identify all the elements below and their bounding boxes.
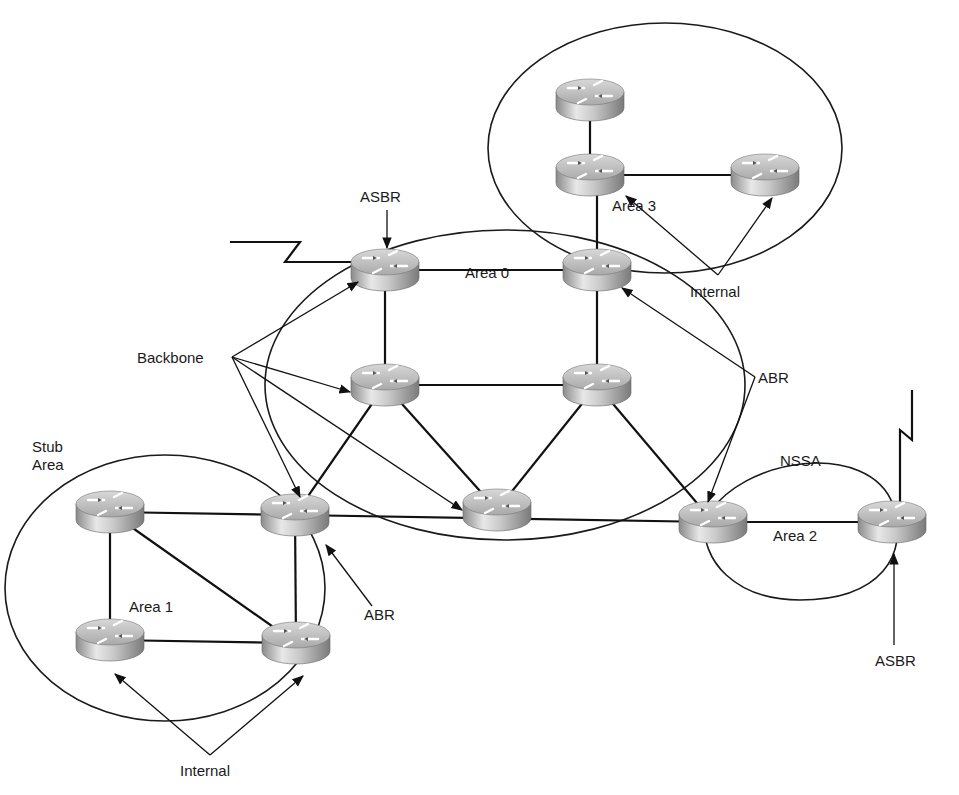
router-area1-top-left — [76, 491, 144, 533]
area0-label: Area 0 — [465, 264, 509, 281]
nssa-label: NSSA — [780, 452, 821, 469]
router-area0-bottom — [463, 489, 531, 531]
router-area3-right — [731, 154, 799, 196]
router-area0-asbr — [351, 249, 419, 291]
internal-bottom-label: Internal — [180, 762, 230, 779]
stub-area-label-line1: Stub — [32, 438, 63, 455]
asbr-bottom-label: ASBR — [875, 652, 916, 669]
router-area2-asbr — [858, 501, 926, 543]
router-area2-abr — [679, 501, 747, 543]
area3-boundary — [488, 23, 842, 273]
router-area0-abr — [563, 249, 631, 291]
router-area1-bottom-right — [262, 622, 330, 664]
area2-label: Area 2 — [773, 527, 817, 544]
router-area1-bottom-left — [76, 619, 144, 661]
router-area0-mid-right — [563, 364, 631, 406]
area1-label: Area 1 — [129, 598, 173, 615]
internal-top-label: Internal — [690, 283, 740, 300]
backbone-label: Backbone — [137, 349, 204, 366]
router-area3-top — [556, 79, 624, 121]
area3-label: Area 3 — [612, 197, 656, 214]
router-area3-left — [556, 154, 624, 196]
abr-bottom-label: ABR — [364, 606, 395, 623]
router-area1-abr — [261, 494, 329, 536]
ospf-topology-diagram — [0, 0, 959, 795]
abr-right-label: ABR — [758, 369, 789, 386]
area1-boundary — [5, 455, 325, 721]
asbr-top-label: ASBR — [360, 188, 401, 205]
router-area0-mid-left — [351, 364, 419, 406]
stub-area-label-line2: Area — [32, 456, 64, 473]
